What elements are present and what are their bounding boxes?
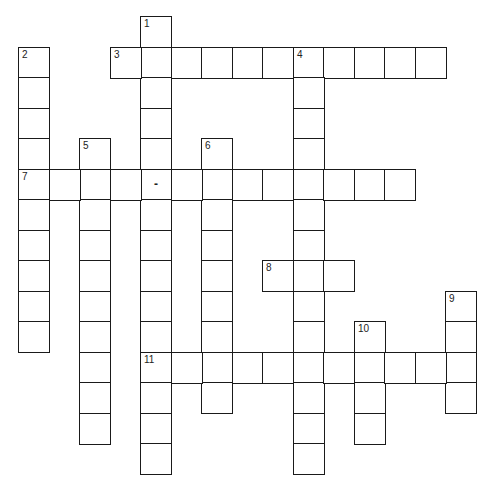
crossword-cell[interactable] xyxy=(323,260,355,292)
crossword-cell[interactable] xyxy=(323,169,355,201)
crossword-cell[interactable] xyxy=(293,260,325,292)
crossword-cell[interactable] xyxy=(79,260,111,292)
crossword-cell[interactable] xyxy=(140,108,172,140)
clue-number: 11 xyxy=(144,354,154,365)
crossword-cell[interactable] xyxy=(293,108,325,140)
crossword-cell[interactable] xyxy=(140,382,172,414)
crossword-cell[interactable] xyxy=(79,169,111,201)
crossword-cell[interactable] xyxy=(18,321,50,353)
crossword-cell[interactable] xyxy=(18,108,50,140)
clue-number: 5 xyxy=(83,140,89,151)
crossword-cell[interactable] xyxy=(49,169,81,201)
crossword-cell[interactable] xyxy=(201,230,233,262)
crossword-cell[interactable] xyxy=(384,352,416,384)
crossword-cell[interactable] xyxy=(445,382,477,414)
crossword-cell[interactable] xyxy=(354,413,386,445)
crossword-cell[interactable] xyxy=(201,321,233,353)
crossword-cell[interactable] xyxy=(293,138,325,170)
crossword-cell[interactable] xyxy=(384,169,416,201)
crossword-cell[interactable] xyxy=(293,321,325,353)
crossword-cell[interactable] xyxy=(232,47,264,79)
crossword-cell[interactable] xyxy=(171,47,203,79)
crossword-cell[interactable] xyxy=(140,291,172,323)
crossword-cell[interactable] xyxy=(354,169,386,201)
crossword-cell[interactable]: 6 xyxy=(201,138,233,170)
crossword-cell[interactable] xyxy=(79,413,111,445)
crossword-cell[interactable] xyxy=(293,382,325,414)
crossword-cell[interactable] xyxy=(354,382,386,414)
crossword-cell[interactable] xyxy=(171,352,203,384)
crossword-cell[interactable] xyxy=(201,199,233,231)
crossword-cell[interactable] xyxy=(140,77,172,109)
clue-number: 2 xyxy=(22,49,28,60)
crossword-cell[interactable] xyxy=(262,47,294,79)
crossword-cell[interactable] xyxy=(79,199,111,231)
crossword-cell[interactable] xyxy=(18,291,50,323)
crossword-cell[interactable] xyxy=(18,77,50,109)
crossword-cell[interactable] xyxy=(79,352,111,384)
crossword-cell[interactable]: 10 xyxy=(354,321,386,353)
crossword-cell[interactable] xyxy=(293,443,325,475)
crossword-cell[interactable] xyxy=(18,260,50,292)
crossword-cell[interactable] xyxy=(201,260,233,292)
crossword-cell[interactable]: 1 xyxy=(140,16,172,48)
crossword-cell[interactable] xyxy=(201,352,233,384)
crossword-cell[interactable] xyxy=(18,230,50,262)
crossword-cell[interactable] xyxy=(18,199,50,231)
crossword-cell[interactable] xyxy=(323,352,355,384)
crossword-cell[interactable] xyxy=(293,77,325,109)
crossword-cell[interactable] xyxy=(232,169,264,201)
crossword-cell[interactable] xyxy=(323,47,355,79)
crossword-cell[interactable] xyxy=(384,47,416,79)
crossword-cell[interactable] xyxy=(140,443,172,475)
crossword-cell[interactable] xyxy=(201,169,233,201)
crossword-cell[interactable]: - xyxy=(140,169,172,201)
crossword-cell[interactable] xyxy=(79,291,111,323)
crossword-cell[interactable]: 9 xyxy=(445,291,477,323)
crossword-cell[interactable] xyxy=(445,321,477,353)
clue-number: 8 xyxy=(266,262,272,273)
crossword-cell[interactable] xyxy=(79,230,111,262)
crossword-cell[interactable] xyxy=(140,47,172,79)
crossword-cell[interactable] xyxy=(79,382,111,414)
crossword-cell[interactable] xyxy=(140,260,172,292)
crossword-cell[interactable] xyxy=(232,352,264,384)
crossword-cell[interactable]: 5 xyxy=(79,138,111,170)
crossword-cell[interactable] xyxy=(293,291,325,323)
crossword-cell[interactable] xyxy=(262,352,294,384)
crossword-cell[interactable]: 3 xyxy=(110,47,142,79)
crossword-cell[interactable] xyxy=(445,352,477,384)
crossword-cell[interactable] xyxy=(415,47,447,79)
crossword-cell[interactable] xyxy=(201,47,233,79)
crossword-cell[interactable] xyxy=(140,413,172,445)
crossword-cell[interactable] xyxy=(140,199,172,231)
clue-number: 7 xyxy=(22,171,28,182)
crossword-cell[interactable] xyxy=(110,169,142,201)
crossword-cell[interactable] xyxy=(293,413,325,445)
clue-number: 3 xyxy=(114,49,120,60)
crossword-cell[interactable] xyxy=(140,230,172,262)
crossword-grid: 1-112734568910 xyxy=(0,0,479,494)
crossword-cell[interactable] xyxy=(415,352,447,384)
clue-number: 10 xyxy=(358,323,369,334)
crossword-cell[interactable]: 4 xyxy=(293,47,325,79)
crossword-cell[interactable] xyxy=(354,47,386,79)
crossword-cell[interactable] xyxy=(262,169,294,201)
crossword-cell[interactable] xyxy=(293,352,325,384)
crossword-cell[interactable]: 11 xyxy=(140,352,172,384)
crossword-cell[interactable]: 2 xyxy=(18,47,50,79)
crossword-cell[interactable]: 7 xyxy=(18,169,50,201)
crossword-cell[interactable] xyxy=(140,321,172,353)
crossword-cell[interactable] xyxy=(354,352,386,384)
crossword-cell[interactable] xyxy=(201,382,233,414)
crossword-cell[interactable] xyxy=(171,169,203,201)
crossword-cell[interactable] xyxy=(79,321,111,353)
crossword-cell[interactable] xyxy=(293,199,325,231)
crossword-cell[interactable] xyxy=(293,230,325,262)
crossword-cell[interactable] xyxy=(140,138,172,170)
crossword-cell[interactable] xyxy=(201,291,233,323)
crossword-cell[interactable] xyxy=(18,138,50,170)
crossword-cell[interactable]: 8 xyxy=(262,260,294,292)
hyphen-mark: - xyxy=(141,177,171,191)
crossword-cell[interactable] xyxy=(293,169,325,201)
